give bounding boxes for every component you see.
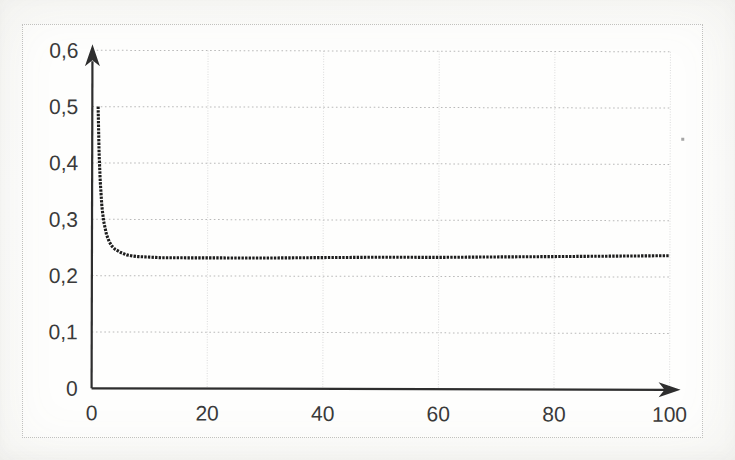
horizontal-gridline — [92, 163, 670, 165]
x-tick-label: 80 — [542, 402, 565, 425]
dust-speck — [681, 138, 684, 141]
y-tick-label: 0 — [66, 377, 78, 400]
y-tick-label: 0,4 — [49, 151, 79, 174]
vertical-gridline — [207, 51, 208, 389]
horizontal-gridline — [92, 276, 670, 278]
x-axis-line — [92, 388, 666, 390]
y-tick-label: 0,2 — [49, 264, 78, 287]
vertical-gridline — [438, 51, 439, 389]
y-axis-line — [92, 61, 93, 388]
x-tick-label: 20 — [195, 402, 218, 425]
x-tick-label: 100 — [652, 403, 687, 426]
horizontal-gridline — [92, 332, 670, 334]
horizontal-gridline — [92, 50, 670, 52]
x-tick-label: 60 — [427, 402, 450, 425]
horizontal-gridline — [92, 107, 670, 109]
x-tick-label: 40 — [311, 402, 334, 425]
y-tick-label: 0,5 — [49, 95, 78, 118]
horizontal-gridline — [92, 219, 670, 221]
chart-svg: 00,10,20,30,40,50,6020406080100 — [0, 0, 735, 460]
data-curve — [98, 107, 671, 259]
y-tick-label: 0,6 — [49, 39, 78, 62]
x-tick-label: 0 — [86, 401, 98, 424]
scanned-page-background: 00,10,20,30,40,50,6020406080100 — [0, 0, 735, 460]
y-tick-label: 0,3 — [49, 208, 78, 231]
y-tick-label: 0,1 — [48, 320, 77, 343]
